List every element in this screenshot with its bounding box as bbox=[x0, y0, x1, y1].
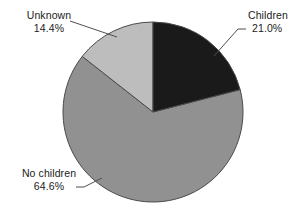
pie-chart-figure: Children 21.0% Unknown 14.4% No children… bbox=[0, 0, 307, 217]
slice-label-unknown: Unknown 14.4% bbox=[12, 9, 86, 34]
slice-label-unknown-percent: 14.4% bbox=[12, 22, 86, 35]
slice-label-children-name: Children bbox=[248, 9, 288, 22]
slice-label-no-children: No children 64.6% bbox=[6, 167, 92, 192]
slice-label-no-children-name: No children bbox=[6, 167, 92, 180]
slice-label-children-percent: 21.0% bbox=[248, 22, 288, 35]
slice-label-children: Children 21.0% bbox=[248, 9, 288, 34]
slice-label-no-children-percent: 64.6% bbox=[6, 180, 92, 193]
slice-label-unknown-name: Unknown bbox=[12, 9, 86, 22]
